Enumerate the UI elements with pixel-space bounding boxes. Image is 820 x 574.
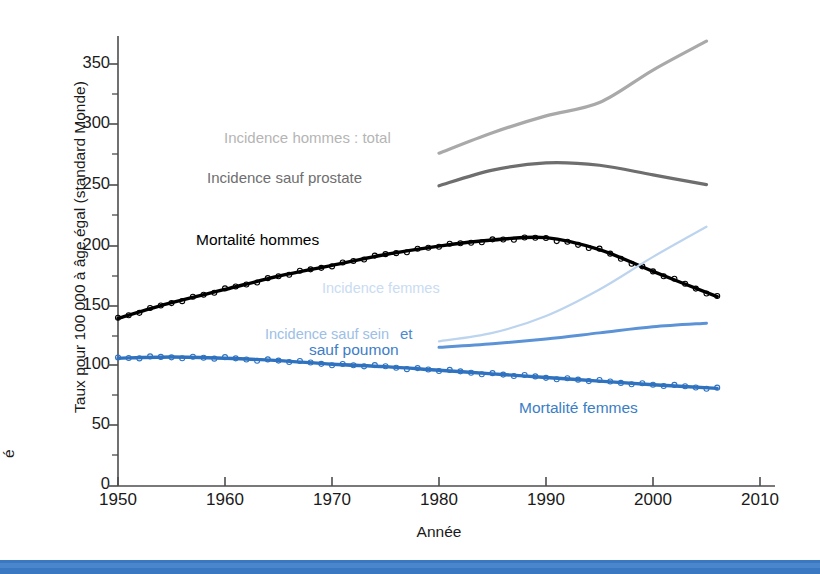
series-1 — [439, 163, 707, 186]
series-layer — [116, 41, 720, 391]
y-minor-ticks — [112, 94, 118, 455]
bottom-decoration-bar — [0, 560, 820, 574]
x-major-ticks — [118, 477, 760, 486]
y-major-ticks — [108, 64, 118, 486]
label-incidence-sauf-prostate: Incidence sauf prostate — [207, 170, 362, 186]
series-line — [439, 163, 707, 186]
series-line — [439, 41, 707, 153]
label-mortalite-hommes: Mortalité hommes — [196, 232, 319, 248]
series-line — [118, 357, 717, 388]
label-incidence-sauf-sein: Incidence sauf sein — [265, 327, 389, 342]
label-incidence-femmes: Incidence femmes — [322, 281, 440, 296]
series-5 — [116, 354, 720, 391]
label-et: et — [400, 326, 413, 342]
bottom-decoration-bar-highlight — [0, 563, 820, 568]
series-0 — [439, 41, 707, 153]
label-sauf-poumon: sauf poumon — [309, 342, 399, 358]
series-line — [118, 237, 717, 318]
label-mortalite-femmes: Mortalité femmes — [519, 400, 638, 416]
chart-figure: Taux pour 100 000 à âge égal (standard M… — [0, 0, 820, 574]
label-incidence-hommes-total: Incidence hommes : total — [224, 130, 391, 146]
